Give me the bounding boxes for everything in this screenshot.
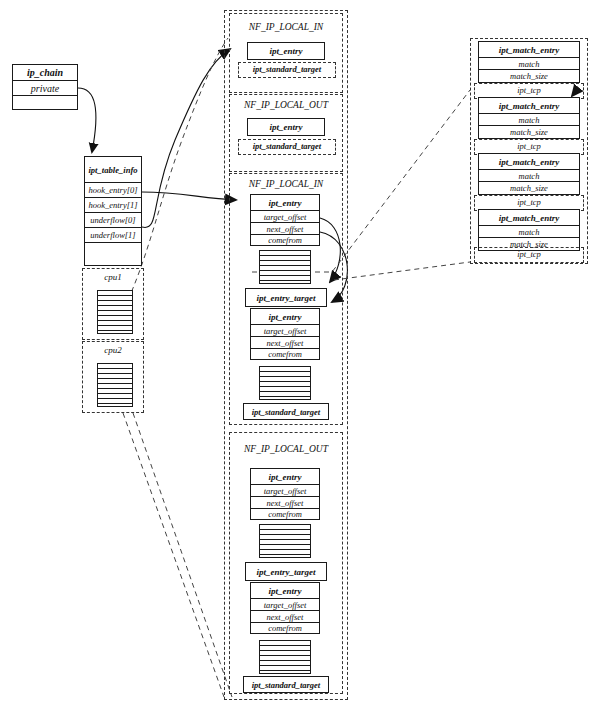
hook-group-4-ipt-entry-2[interactable]: ipt_entry target_offset next_offset come… xyxy=(250,582,320,634)
hook-group-3-label: NF_IP_LOCAL_IN xyxy=(229,179,343,189)
hook-group-3-stripes-2 xyxy=(259,366,311,400)
hook-group-4-label: NF_IP_LOCAL_OUT xyxy=(229,444,343,454)
match-entry-4-ipt-tcp: ipt_tcp xyxy=(474,249,584,259)
hook-group-4-standard-target[interactable]: ipt_standard_target xyxy=(243,676,329,693)
target-offset-row: target_offset xyxy=(251,599,319,611)
match-size-row: match_size xyxy=(479,70,579,83)
ipt-entry-title: ipt_entry xyxy=(251,583,319,599)
ipt-match-entry-title: ipt_match_entry xyxy=(479,42,579,58)
match-entry-2[interactable]: ipt_match_entry match match_size xyxy=(478,97,580,139)
match-row: match xyxy=(479,170,579,182)
ip-chain-empty-row xyxy=(13,96,77,109)
dashed-cpu2-to-local-out-left xyxy=(123,413,224,697)
ipt-entry-target-title: ipt_entry_target xyxy=(246,563,326,581)
link-underflow0-to-top-local-in xyxy=(142,49,230,228)
dashed-stripes-to-match-lower xyxy=(334,262,470,280)
hook-group-1-ipt-entry[interactable]: ipt_entry xyxy=(247,42,325,60)
ipt-match-entry-title: ipt_match_entry xyxy=(479,98,579,114)
ipt-entry-title: ipt_entry xyxy=(248,119,324,136)
hook-group-4-entry-target[interactable]: ipt_entry_target xyxy=(245,562,327,581)
hook-entry-0-row: hook_entry[0] xyxy=(85,183,141,198)
underflow-1-row: underflow[1] xyxy=(85,228,141,243)
ipt-standard-target-title: ipt_standard_target xyxy=(244,677,328,693)
hook-group-3-stripes-1 xyxy=(259,250,311,284)
hook-entry-1-row: hook_entry[1] xyxy=(85,198,141,213)
next-offset-row: next_offset xyxy=(251,497,319,509)
target-offset-row: target_offset xyxy=(251,211,319,223)
diagram-canvas: ip_chain private ipt_table_info hook_ent… xyxy=(0,0,597,709)
comefrom-row: comefrom xyxy=(251,349,319,360)
hook-group-3-ipt-entry-2[interactable]: ipt_entry target_offset next_offset come… xyxy=(250,308,320,360)
link-private-to-table-info xyxy=(78,88,96,152)
hook-group-2-ipt-entry[interactable]: ipt_entry xyxy=(247,118,325,136)
ipt-table-info-box[interactable]: ipt_table_info hook_entry[0] hook_entry[… xyxy=(84,156,142,266)
next-offset-row: next_offset xyxy=(251,223,319,235)
ip-chain-box[interactable]: ip_chain private xyxy=(12,64,78,110)
comefrom-row: comefrom xyxy=(251,235,319,246)
ipt-entry-title: ipt_entry xyxy=(251,469,319,485)
match-entry-2-ipt-tcp: ipt_tcp xyxy=(474,141,584,151)
hook-group-4-stripes-1 xyxy=(259,524,311,558)
hook-group-4-stripes-2 xyxy=(259,640,311,674)
ip-chain-private: private xyxy=(13,81,77,96)
ipt-table-info-title: ipt_table_info xyxy=(85,157,141,183)
match-entry-1-ipt-tcp: ipt_tcp xyxy=(474,85,584,95)
cpu2-label: cpu2 xyxy=(82,345,144,355)
cpu2-stripes xyxy=(97,363,133,407)
match-row: match xyxy=(479,226,579,238)
hook-group-3-entry-target[interactable]: ipt_entry_target xyxy=(245,288,327,307)
match-entry-3[interactable]: ipt_match_entry match match_size xyxy=(478,153,580,195)
match-row: match xyxy=(479,58,579,70)
match-size-row: match_size xyxy=(479,126,579,139)
dashed-cpu2-to-local-out-right xyxy=(133,413,232,697)
dashed-underflow-companion xyxy=(128,38,228,300)
cpu1-label: cpu1 xyxy=(82,272,144,282)
underflow-0-row: underflow[0] xyxy=(85,213,141,228)
ipt-entry-title: ipt_entry xyxy=(251,195,319,211)
match-row: match xyxy=(479,114,579,126)
ip-chain-title: ip_chain xyxy=(13,65,77,81)
target-offset-row: target_offset xyxy=(251,325,319,337)
hook-group-4-ipt-entry-1[interactable]: ipt_entry target_offset next_offset come… xyxy=(250,468,320,520)
hook-group-3-ipt-entry-1[interactable]: ipt_entry target_offset next_offset come… xyxy=(250,194,320,246)
comefrom-row: comefrom xyxy=(251,623,319,634)
comefrom-row: comefrom xyxy=(251,509,319,520)
hook-group-2-label: NF_IP_LOCAL_OUT xyxy=(229,100,343,110)
target-offset-row: target_offset xyxy=(251,485,319,497)
ipt-match-entry-title: ipt_match_entry xyxy=(479,154,579,170)
ipt-standard-target-title: ipt_standard_target xyxy=(244,404,328,420)
ipt-entry-title: ipt_entry xyxy=(248,43,324,60)
match-size-row: match_size xyxy=(479,182,579,195)
match-entry-1[interactable]: ipt_match_entry match match_size xyxy=(478,41,580,83)
hook-group-1-standard-target: ipt_standard_target xyxy=(238,64,336,74)
ipt-table-info-empty-row xyxy=(85,243,141,265)
hook-group-1-label: NF_IP_LOCAL_IN xyxy=(229,22,343,32)
hook-group-2-standard-target: ipt_standard_target xyxy=(238,141,336,151)
ipt-entry-target-title: ipt_entry_target xyxy=(246,289,326,307)
next-offset-row: next_offset xyxy=(251,611,319,623)
hook-group-3-standard-target[interactable]: ipt_standard_target xyxy=(243,403,329,420)
ipt-match-entry-title: ipt_match_entry xyxy=(479,210,579,226)
link-hook0-to-local-in xyxy=(142,192,236,200)
match-entry-3-ipt-tcp: ipt_tcp xyxy=(474,197,584,207)
ipt-entry-title: ipt_entry xyxy=(251,309,319,325)
match-entry-4[interactable]: ipt_match_entry match match_size xyxy=(478,209,580,251)
cpu1-stripes xyxy=(97,290,133,334)
next-offset-row: next_offset xyxy=(251,337,319,349)
